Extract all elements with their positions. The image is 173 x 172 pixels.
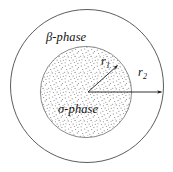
inner-radius-subscript: 1 xyxy=(106,61,110,70)
outer-radius-label: r2 xyxy=(138,66,147,78)
beta-phase-label: β-phase xyxy=(46,31,86,44)
figure-container: β-phase σ-phase r1 r2 xyxy=(0,0,173,172)
inner-radius-label: r1 xyxy=(101,55,110,67)
outer-radius-symbol: r xyxy=(138,65,143,79)
inner-radius-symbol: r xyxy=(101,54,106,68)
sigma-phase-label: σ-phase xyxy=(58,103,98,116)
diagram-canvas xyxy=(0,0,173,172)
outer-radius-subscript: 2 xyxy=(143,72,147,81)
